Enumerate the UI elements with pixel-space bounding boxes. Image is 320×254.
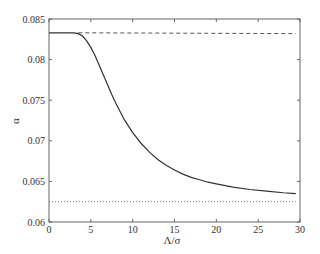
y-tick-label: 0.07 bbox=[28, 135, 46, 146]
x-tick-label: 25 bbox=[253, 224, 263, 235]
x-tick-label: 20 bbox=[211, 224, 221, 235]
y-axis-label: α bbox=[9, 118, 21, 124]
y-tick-label: 0.06 bbox=[28, 217, 46, 228]
upper-limit-line bbox=[78, 33, 296, 34]
x-tick-label: 5 bbox=[88, 224, 93, 235]
plot-border bbox=[49, 19, 300, 222]
data-series bbox=[49, 33, 296, 202]
y-tick-label: 0.075 bbox=[23, 95, 46, 106]
y-tick-label: 0.085 bbox=[23, 14, 46, 25]
x-tick-label: 10 bbox=[128, 224, 138, 235]
plot-frame bbox=[49, 19, 300, 222]
y-tick-label: 0.08 bbox=[28, 54, 46, 65]
x-tick-label: 0 bbox=[47, 224, 52, 235]
line-chart: 0510152025300.060.0650.070.0750.080.085 … bbox=[0, 0, 320, 254]
x-axis-label: Λ/σ bbox=[164, 234, 181, 246]
x-tick-label: 30 bbox=[295, 224, 305, 235]
y-tick-label: 0.065 bbox=[23, 176, 46, 187]
alpha-line bbox=[49, 33, 296, 194]
